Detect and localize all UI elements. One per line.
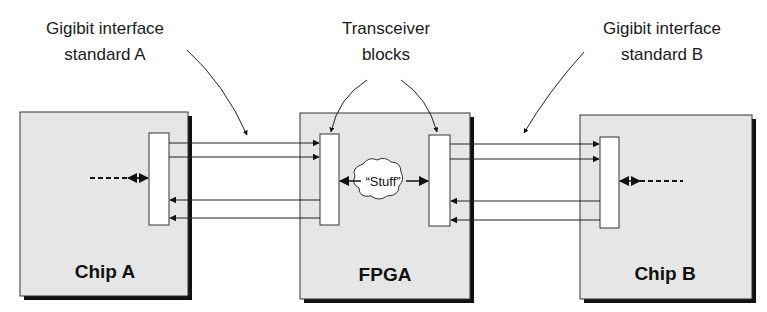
fpga: “Stuff” FPGA [300,113,474,303]
chip-b: Chip B [580,115,756,303]
annotation-transceivers-line2: blocks [362,45,410,64]
pointer-standard-b [524,52,584,133]
chip-b-label: Chip B [634,263,695,284]
chip-b-transceiver [600,137,619,228]
annotation-standard-b-line1: Gigibit interface [603,19,721,38]
diagram-canvas: Chip A “Stuff” FPGA Chip B Gigibit inte [0,0,767,312]
fpga-label: FPGA [359,264,412,285]
annotation-standard-a-line2: standard A [64,45,146,64]
annotation-transceivers-line1: Transceiver [342,19,431,38]
pointer-standard-a [187,50,247,135]
stuff-label: “Stuff” [365,174,400,189]
annotation-standard-b-line2: standard B [621,45,703,64]
fpga-transceiver-left [320,134,339,225]
chip-a-label: Chip A [75,261,136,282]
fpga-transceiver-right [429,135,450,226]
chip-a: Chip A [20,112,192,300]
annotation-standard-a-line1: Gigibit interface [46,19,164,38]
chip-a-transceiver [149,133,169,225]
